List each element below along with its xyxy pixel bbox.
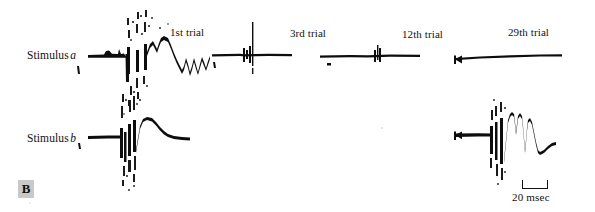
trace-stimulus-a-1st-trial — [77, 10, 210, 109]
scale-bar — [522, 180, 548, 189]
trace-stimulus-b-29th-trial — [454, 99, 556, 185]
trace-stimulus-a-29th-trial — [454, 54, 562, 64]
oscilloscope-traces — [0, 0, 595, 212]
panel-letter-b: B — [18, 180, 34, 198]
trace-stimulus-a-3rd-trial — [212, 22, 292, 74]
figure-panel-b: Stimulusa Stimulusb 1st trial 3rd trial … — [0, 0, 595, 212]
trace-stimulus-b-1st-trial — [78, 93, 190, 191]
scale-bar-label: 20 msec — [512, 191, 550, 203]
trace-stimulus-a-12th-trial — [320, 45, 420, 66]
